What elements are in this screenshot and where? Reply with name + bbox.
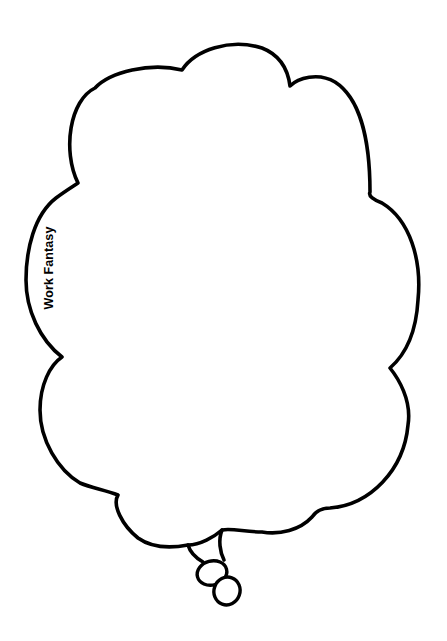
cloud-outline bbox=[26, 44, 419, 546]
tail-connector-right bbox=[220, 530, 224, 560]
tail-connector-left bbox=[188, 545, 203, 562]
thought-cloud-icon bbox=[0, 0, 447, 641]
thought-bubble-page: Work Fantasy bbox=[0, 0, 447, 641]
caption-text: Work Fantasy bbox=[42, 227, 56, 310]
